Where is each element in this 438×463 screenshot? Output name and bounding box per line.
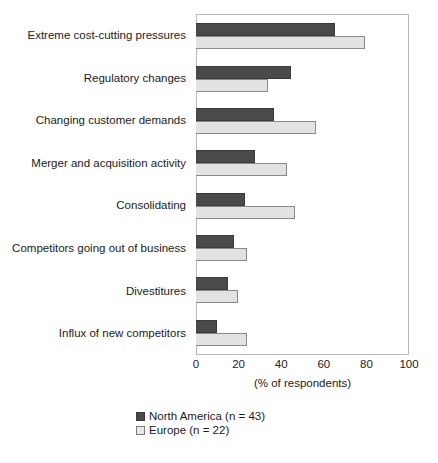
bar-group (197, 100, 408, 142)
plot-area (196, 14, 409, 355)
category-label-text: Divestitures (126, 285, 186, 298)
bar-1-1 (196, 79, 268, 92)
bar-0-1 (196, 66, 291, 79)
category-label: Regulatory changes (0, 57, 192, 100)
category-label-text: Consolidating (116, 199, 186, 212)
x-axis-tick: 40 (275, 358, 288, 370)
x-axis-tick: 20 (232, 358, 245, 370)
bar-group (197, 269, 408, 311)
category-label-text: Competitors going out of business (12, 242, 186, 255)
bar-1-5 (196, 248, 247, 261)
category-label-text: Merger and acquisition activity (31, 157, 186, 170)
bar-0-4 (196, 193, 245, 206)
bar-1-4 (196, 206, 295, 219)
bars-layer (197, 15, 408, 354)
category-label: Consolidating (0, 185, 192, 228)
bar-group (197, 142, 408, 184)
bar-1-3 (196, 163, 287, 176)
bar-1-0 (196, 36, 365, 49)
chart-legend: North America (n = 43)Europe (n = 22) (136, 410, 265, 436)
bar-group (197, 15, 408, 57)
x-axis-tick: 0 (193, 358, 199, 370)
category-label-text: Extreme cost-cutting pressures (27, 29, 186, 42)
category-label: Merger and acquisition activity (0, 142, 192, 185)
category-label-text: Influx of new competitors (59, 327, 186, 340)
bar-group (197, 185, 408, 227)
legend-label: North America (n = 43) (149, 410, 265, 422)
x-axis-title: (% of respondents) (196, 377, 409, 389)
legend-label: Europe (n = 22) (149, 424, 229, 436)
bar-0-3 (196, 150, 255, 163)
bar-group (197, 227, 408, 269)
bar-1-7 (196, 333, 247, 346)
horizontal-bar-chart: Extreme cost-cutting pressuresRegulatory… (0, 0, 438, 463)
category-label: Changing customer demands (0, 99, 192, 142)
bar-0-7 (196, 320, 217, 333)
category-label-text: Regulatory changes (84, 72, 186, 85)
legend-swatch-icon (136, 426, 145, 435)
bar-0-2 (196, 108, 274, 121)
x-axis-tick: 100 (399, 358, 418, 370)
category-label: Divestitures (0, 270, 192, 313)
x-axis-tick: 80 (360, 358, 373, 370)
bar-group (197, 57, 408, 99)
category-label: Extreme cost-cutting pressures (0, 14, 192, 57)
bar-0-6 (196, 277, 228, 290)
category-label-text: Changing customer demands (36, 114, 186, 127)
category-label: Competitors going out of business (0, 227, 192, 270)
bar-1-6 (196, 290, 238, 303)
bar-0-5 (196, 235, 234, 248)
legend-swatch-icon (136, 412, 145, 421)
legend-item[interactable]: North America (n = 43) (136, 410, 265, 422)
bar-0-0 (196, 23, 335, 36)
bar-group (197, 312, 408, 354)
x-axis-tick: 60 (317, 358, 330, 370)
category-axis: Extreme cost-cutting pressuresRegulatory… (0, 14, 192, 355)
legend-item[interactable]: Europe (n = 22) (136, 424, 265, 436)
x-axis-tick-labels: 020406080100 (196, 358, 409, 374)
bar-1-2 (196, 121, 316, 134)
category-label: Influx of new competitors (0, 312, 192, 355)
